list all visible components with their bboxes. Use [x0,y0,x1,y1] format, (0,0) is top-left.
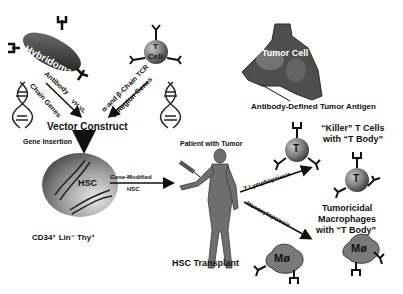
hsc-label: HSC [78,178,97,188]
patient-label: Patient with Tumor [180,140,242,147]
dna-right-icon [161,82,181,128]
macro-label-line3: with “T Body” [316,225,376,235]
gene-modified-hsc-label: HSC [127,186,140,192]
gene-modified-label: Gene-Modified [110,174,152,180]
mo-glyph-2: Mø [351,242,367,254]
macro-label-line1: Tumoricidal [322,203,372,213]
syringe-icon [180,162,200,177]
macro-label-line2: Macrophages [318,214,376,224]
tumor-cell-label: Tumor Cell [262,48,308,58]
tumor-cell [242,24,322,101]
dna-left-icon [13,82,33,128]
macrophage-2 [343,234,384,276]
cd34-label: CD34⁺ Lin⁻ Thy⁺ [32,233,95,242]
killer-label-line2: with “T Body” [323,134,383,144]
t-cell-label-top: T [153,42,158,51]
hsc-transplant-label: HSC Transplant [172,258,239,268]
t-cell-label-bottom: Cell [148,52,163,61]
gene-insertion-label: Gene Insertion [23,138,72,145]
t-glyph-2: T [353,173,359,184]
tumor-antigen-label: Antibody-Defined Tumor Antigen [251,102,376,111]
killer-label-line1: “Killer” T Cells [321,123,385,133]
macrophage-1 [254,244,303,284]
vector-construct-label: Vector Construct [47,121,128,132]
t-glyph-1: T [293,143,299,154]
mo-glyph-1: Mø [274,252,290,264]
diagram-canvas [0,0,403,294]
